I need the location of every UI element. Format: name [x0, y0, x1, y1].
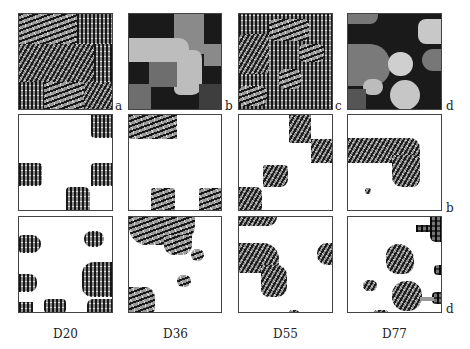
texture-region — [19, 14, 77, 44]
segment-region — [348, 14, 378, 24]
segment-region — [149, 62, 177, 87]
texture-region — [386, 244, 414, 274]
panel-label-b: b — [225, 100, 233, 112]
texture-region — [269, 19, 309, 41]
extracted-panel-d20-row2 — [18, 114, 113, 211]
texture-region — [289, 310, 299, 313]
texture-region — [363, 280, 377, 291]
texture-region — [420, 297, 434, 301]
texture-region — [19, 302, 33, 313]
texture-region — [239, 217, 277, 226]
segment-region — [348, 89, 366, 110]
texture-region — [19, 163, 42, 186]
segment-region — [199, 84, 222, 110]
segmentation-panel-b — [128, 13, 222, 110]
texture-region — [311, 139, 333, 163]
segment-region — [204, 44, 222, 66]
texture-region — [263, 165, 288, 187]
texture-region — [416, 225, 430, 232]
texture-region — [84, 231, 104, 247]
texture-region — [66, 187, 90, 211]
texture-region — [317, 243, 333, 265]
panel-label-c: c — [335, 100, 342, 112]
texture-region — [199, 188, 222, 211]
segment-region — [418, 19, 442, 44]
texture-region — [239, 86, 267, 106]
texture-region — [177, 275, 191, 287]
texture-region — [19, 82, 44, 110]
extracted-panel-d20-row3 — [18, 216, 113, 313]
extracted-panel-d77-row3 — [347, 216, 442, 313]
segment-region — [174, 50, 202, 95]
texture-region — [77, 14, 113, 44]
column-caption-d20: D20 — [18, 327, 113, 341]
texture-region — [129, 287, 155, 313]
texture-region — [19, 274, 37, 292]
texture-region — [44, 299, 66, 313]
texture-region — [82, 262, 113, 297]
texture-region — [239, 187, 262, 211]
texture-region — [392, 155, 420, 187]
segment-region — [422, 49, 442, 71]
texture-region — [84, 82, 113, 110]
texture-region — [151, 188, 175, 211]
extracted-panel-d55-row3 — [238, 216, 333, 313]
row-label-b: b — [446, 202, 454, 214]
texture-region — [129, 115, 177, 139]
segment-region — [390, 80, 420, 110]
segmentation-panel-d — [347, 13, 442, 110]
extracted-panel-d36-row2 — [128, 114, 222, 211]
texture-region — [289, 115, 311, 143]
texture-region — [239, 34, 269, 74]
panel-label-d: d — [446, 100, 454, 112]
texture-region — [392, 281, 422, 311]
texture-region — [299, 44, 324, 62]
mosaic-panel-c — [238, 13, 333, 110]
segment-region — [363, 79, 383, 95]
texture-region — [434, 265, 442, 275]
extracted-panel-d36-row3 — [128, 216, 222, 313]
row-label-d: d — [446, 303, 454, 315]
texture-region — [44, 82, 84, 110]
panel-label-a: a — [115, 100, 122, 112]
texture-region — [191, 249, 204, 261]
texture-region — [91, 115, 113, 138]
texture-region — [91, 163, 113, 186]
texture-region — [374, 310, 388, 313]
texture-region — [365, 188, 371, 194]
texture-region — [87, 299, 113, 313]
segment-region — [129, 84, 151, 110]
mosaic-panel-a — [18, 13, 113, 110]
texture-region — [261, 265, 287, 297]
column-caption-d77: D77 — [347, 327, 442, 341]
texture-region — [94, 44, 113, 82]
column-caption-d55: D55 — [238, 327, 333, 341]
texture-region — [19, 235, 41, 253]
column-caption-d36: D36 — [128, 327, 223, 341]
extracted-panel-d77-row2 — [347, 114, 442, 211]
texture-region — [164, 235, 192, 255]
extracted-panel-d55-row2 — [238, 114, 333, 211]
texture-region — [279, 69, 301, 89]
texture-region — [430, 217, 442, 242]
texture-region — [19, 44, 94, 82]
segment-region — [388, 52, 413, 76]
